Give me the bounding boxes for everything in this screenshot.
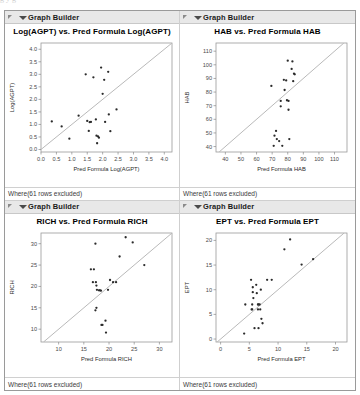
ghost-text: g y g [0, 0, 16, 3]
panel-footer: Where(61 rows excluded) [180, 187, 355, 200]
svg-text:70: 70 [206, 103, 212, 109]
svg-text:15: 15 [31, 304, 37, 310]
svg-text:10: 10 [31, 326, 37, 332]
svg-text:1.5: 1.5 [83, 156, 91, 162]
svg-text:2.0: 2.0 [99, 156, 107, 162]
svg-text:1.0: 1.0 [29, 121, 37, 127]
svg-text:0.5: 0.5 [29, 134, 37, 140]
panel-corner-icon [8, 14, 15, 21]
svg-text:20: 20 [106, 346, 112, 352]
svg-text:90: 90 [206, 75, 212, 81]
y-axis-label: Log(AGPT) [9, 83, 15, 112]
svg-text:110: 110 [203, 48, 212, 54]
svg-text:3.5: 3.5 [29, 59, 37, 65]
svg-text:15: 15 [206, 262, 212, 268]
svg-text:100: 100 [203, 62, 212, 68]
svg-text:0.0: 0.0 [29, 146, 37, 152]
panel-header-label: Graph Builder [28, 202, 79, 211]
svg-text:1.0: 1.0 [68, 156, 76, 162]
svg-text:3.0: 3.0 [130, 156, 138, 162]
svg-text:20: 20 [31, 283, 37, 289]
chevron-down-icon[interactable] [18, 14, 25, 21]
x-axis-label: Pred Formula Log(AGPT) [73, 166, 139, 172]
panel-header[interactable]: Graph Builder [5, 11, 179, 24]
panel-corner-icon [183, 14, 190, 21]
svg-text:70: 70 [269, 156, 275, 162]
y-axis-label: EPT [184, 281, 190, 293]
svg-text:90: 90 [300, 156, 306, 162]
chevron-down-icon[interactable] [193, 14, 200, 21]
rows-excluded-note: Where(61 rows excluded) [8, 381, 82, 388]
panel-corner-icon [8, 203, 15, 210]
panel-footer: Where(61 rows excluded) [5, 187, 179, 200]
panel-header[interactable]: Graph Builder [180, 201, 355, 214]
chevron-down-icon[interactable] [18, 203, 25, 210]
chart-title: RICH vs. Pred Formula RICH [5, 217, 179, 226]
svg-text:5: 5 [209, 311, 212, 317]
svg-text:25: 25 [131, 346, 137, 352]
svg-text:10: 10 [56, 346, 62, 352]
svg-text:80: 80 [206, 89, 212, 95]
svg-text:4.0: 4.0 [29, 46, 37, 52]
svg-text:0.0: 0.0 [37, 156, 45, 162]
svg-text:20: 20 [332, 346, 338, 352]
svg-text:15: 15 [81, 346, 87, 352]
svg-text:60: 60 [206, 116, 212, 122]
screenshot-root: g y g Graph BuilderLog(AGPT) vs. Pred Fo… [0, 0, 360, 395]
svg-text:50: 50 [206, 130, 212, 136]
panel-header[interactable]: Graph Builder [180, 11, 355, 24]
graph-builder-panel: Graph BuilderRICH vs. Pred Formula RICH1… [5, 201, 180, 391]
x-axis-label: Pred Formula RICH [81, 356, 132, 362]
cut-off-text-row: g y g [0, 0, 360, 9]
rows-excluded-note: Where(61 rows excluded) [183, 190, 257, 197]
y-axis-label: HAB [184, 91, 190, 103]
svg-text:40: 40 [206, 144, 212, 150]
panel-corner-icon [183, 203, 190, 210]
x-axis-label: Pred Formula HAB [257, 166, 306, 172]
svg-text:2.0: 2.0 [29, 96, 37, 102]
svg-text:0: 0 [209, 336, 212, 342]
rows-excluded-note: Where(61 rows excluded) [8, 190, 82, 197]
rows-excluded-note: Where(61 rows excluded) [183, 381, 257, 388]
svg-text:3.5: 3.5 [145, 156, 153, 162]
chevron-down-icon[interactable] [193, 203, 200, 210]
panel-header[interactable]: Graph Builder [5, 201, 179, 214]
svg-text:30: 30 [31, 240, 37, 246]
svg-text:0: 0 [219, 346, 222, 352]
svg-text:60: 60 [253, 156, 259, 162]
chart-title: Log(AGPT) vs. Pred Formula Log(AGPT) [5, 27, 179, 36]
chart-title: HAB vs. Pred Formula HAB [180, 27, 355, 36]
y-axis-label: RICH [9, 280, 15, 294]
x-axis-label: Pred Formula EPT [258, 356, 306, 362]
svg-text:15: 15 [304, 346, 310, 352]
svg-text:10: 10 [275, 346, 281, 352]
panel-footer: Where(61 rows excluded) [180, 377, 355, 390]
panel-header-label: Graph Builder [203, 202, 254, 211]
graph-builder-panel: Graph BuilderEPT vs. Pred Formula EPT051… [180, 201, 355, 391]
svg-text:50: 50 [238, 156, 244, 162]
svg-text:40: 40 [222, 156, 228, 162]
scatter-plot[interactable]: 10152025301015202530Pred Formula RICHRIC… [5, 227, 179, 369]
svg-text:80: 80 [285, 156, 291, 162]
graph-builder-panel: Graph BuilderHAB vs. Pred Formula HAB405… [180, 11, 355, 201]
svg-text:110: 110 [330, 156, 339, 162]
graph-builder-panel: Graph BuilderLog(AGPT) vs. Pred Formula … [5, 11, 180, 201]
svg-text:3.0: 3.0 [29, 71, 37, 77]
svg-text:30: 30 [156, 346, 162, 352]
svg-text:100: 100 [314, 156, 323, 162]
svg-text:25: 25 [31, 262, 37, 268]
chart-title: EPT vs. Pred Formula EPT [180, 217, 355, 226]
scatter-plot[interactable]: 0.00.51.01.52.02.53.03.54.00.00.51.01.52… [5, 37, 179, 179]
scatter-plot[interactable]: 405060708090100110405060708090100110Pred… [180, 37, 355, 179]
svg-text:10: 10 [206, 286, 212, 292]
svg-text:0.5: 0.5 [53, 156, 61, 162]
panel-header-label: Graph Builder [203, 13, 254, 22]
svg-text:4.0: 4.0 [160, 156, 168, 162]
panel-footer: Where(61 rows excluded) [5, 377, 179, 390]
svg-text:2.5: 2.5 [114, 156, 122, 162]
scatter-plot[interactable]: 0510152005101520Pred Formula EPTEPT [180, 227, 355, 369]
graph-builder-panel-grid: Graph BuilderLog(AGPT) vs. Pred Formula … [4, 10, 356, 391]
svg-text:20: 20 [206, 237, 212, 243]
svg-text:2.5: 2.5 [29, 84, 37, 90]
panel-header-label: Graph Builder [28, 13, 79, 22]
